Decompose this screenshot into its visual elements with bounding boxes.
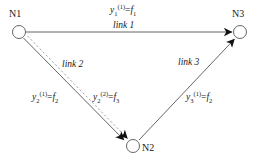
flow-label-link2-a: y2(1)=f2	[32, 93, 58, 103]
node-label-n3: N3	[232, 9, 244, 19]
flow-label-link1-rhs-sub: 1	[133, 10, 136, 17]
network-diagram: N1 N2 N3 y1(1)=f1 link 1 link 2 link 3 y…	[0, 0, 259, 162]
link-label-link1: link 1	[113, 21, 134, 31]
flow-label-link3: y3(1)=f2	[186, 93, 212, 103]
flow-label-link3-sup: (1)	[193, 90, 201, 97]
flow-label-link2-b-sub: 2	[97, 97, 100, 104]
node-label-n2: N2	[142, 143, 154, 153]
node-n2[interactable]	[127, 140, 140, 153]
link-label-link2: link 2	[62, 60, 83, 70]
flow-label-link2-a-rhs-sub: 2	[55, 97, 58, 104]
link-label-link3: link 3	[178, 58, 199, 68]
flow-label-link1-sup: (1)	[117, 3, 125, 10]
flow-label-link2-b-sup: (2)	[100, 90, 108, 97]
flow-label-link2-a-sub: 2	[36, 97, 39, 104]
flow-label-link1-sub: 1	[114, 10, 117, 17]
node-label-n1: N1	[9, 9, 21, 19]
link3-edge	[139, 39, 235, 140]
flow-label-link3-sub: 3	[190, 97, 193, 104]
flow-label-link2-a-sup: (1)	[39, 90, 47, 97]
flow-label-link3-rhs-sub: 2	[209, 97, 212, 104]
flow-label-link2-b: y2(2)=f3	[93, 93, 119, 103]
flow-label-link1: y1(1)=f1	[110, 6, 136, 16]
flow-label-link2-b-rhs-sub: 3	[116, 97, 119, 104]
link2-edge-dashed	[28, 36, 128, 139]
node-n1[interactable]	[13, 26, 26, 39]
node-n3[interactable]	[234, 26, 247, 39]
